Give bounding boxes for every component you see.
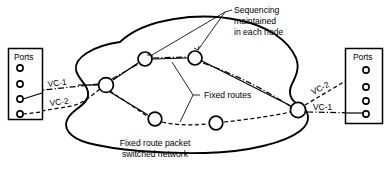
fixed-routes-label: Fixed routes xyxy=(204,90,251,100)
left-ports-label: Ports xyxy=(14,52,34,62)
node-top-right xyxy=(188,51,202,65)
node-left xyxy=(99,78,114,93)
node-bottom-right xyxy=(209,116,223,130)
right-port-4[interactable] xyxy=(363,111,369,117)
network-diagram: Ports Ports Sequencing maintained in eac… xyxy=(0,0,388,169)
vc2-right-label: VC-2 xyxy=(309,79,331,97)
right-ports-label: Ports xyxy=(353,52,373,62)
left-port-3[interactable] xyxy=(17,96,23,102)
right-port-3[interactable] xyxy=(363,98,369,104)
diagram-canvas: Ports Ports Sequencing maintained in eac… xyxy=(0,0,388,169)
caption-line-2: switched network xyxy=(122,149,189,159)
right-port-1[interactable] xyxy=(363,67,369,73)
node-top-left xyxy=(138,52,152,66)
vc2-left-label: VC-2 xyxy=(49,96,69,108)
sequencing-leader-stem xyxy=(225,10,232,12)
left-port-2[interactable] xyxy=(17,81,23,87)
caption-line-1: Fixed route packet xyxy=(120,138,191,148)
node-bottom-left xyxy=(148,112,162,126)
left-port-4[interactable] xyxy=(17,111,23,117)
sequencing-line-3: in each node xyxy=(234,27,283,37)
vc1-right-label: VC-1 xyxy=(313,102,332,112)
right-port-2[interactable] xyxy=(363,84,369,90)
left-port-1[interactable] xyxy=(17,65,23,71)
node-right xyxy=(290,102,305,117)
sequencing-line-1: Sequencing xyxy=(234,5,280,15)
sequencing-line-2: maintained xyxy=(234,16,276,26)
vc1-left-label: VC-1 xyxy=(47,77,67,89)
